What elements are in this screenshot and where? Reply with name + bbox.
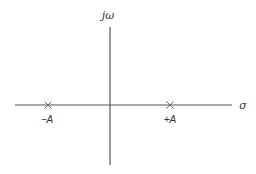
marker-label-positive: +A: [164, 114, 177, 125]
marker-label-negative: −A: [41, 114, 54, 125]
imaginary-axis-label: jω: [99, 9, 114, 22]
s-plane-diagram: jω σ −A +A: [0, 0, 256, 174]
real-axis-label: σ: [239, 99, 247, 112]
